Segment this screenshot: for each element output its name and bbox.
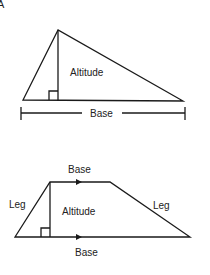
geometry-diagram: A Altitude Base Base Leg Altitude Leg Ba… [0, 0, 210, 275]
trapezoid-right-leg-label: Leg [153, 200, 170, 211]
trapezoid-bottom-base-label: Base [75, 247, 98, 258]
right-angle-marker [49, 91, 58, 100]
right-angle-marker [41, 228, 50, 237]
triangle-base-label: Base [90, 108, 113, 119]
trapezoid-top-base-label: Base [68, 164, 91, 175]
trapezoid-figure: Base Leg Altitude Leg Base [9, 164, 190, 258]
trapezoid-left-leg-label: Leg [9, 199, 26, 210]
trapezoid-altitude-label: Altitude [62, 206, 96, 217]
parallel-arrow-icon [76, 234, 82, 240]
triangle-altitude-label: Altitude [70, 67, 104, 78]
triangle-shape [23, 30, 183, 101]
triangle-figure: Altitude Base [21, 30, 185, 120]
parallel-arrow-icon [76, 179, 82, 185]
corner-glyph: A [0, 0, 5, 10]
